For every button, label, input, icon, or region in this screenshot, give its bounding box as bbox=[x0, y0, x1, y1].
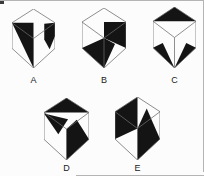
option-label-a: A bbox=[12, 76, 55, 85]
option-label-b: B bbox=[82, 76, 126, 85]
border-bottom bbox=[76, 175, 204, 176]
cube-e-drawing bbox=[115, 97, 160, 160]
border-top bbox=[0, 0, 204, 1]
puzzle-figure: A B C D E bbox=[0, 0, 204, 176]
cube-b-drawing bbox=[82, 8, 126, 68]
cube-d-drawing bbox=[44, 98, 89, 160]
cube-a-drawing bbox=[12, 9, 55, 68]
border-right bbox=[203, 0, 204, 172]
option-cube-e bbox=[115, 97, 160, 160]
option-label-d: D bbox=[44, 164, 89, 173]
option-cube-c bbox=[153, 7, 196, 68]
option-cube-b bbox=[82, 8, 126, 68]
option-cube-d bbox=[44, 98, 89, 160]
option-label-e: E bbox=[115, 164, 160, 173]
option-cube-a bbox=[12, 9, 55, 68]
cube-c-drawing bbox=[153, 7, 196, 68]
option-label-c: C bbox=[153, 76, 196, 85]
